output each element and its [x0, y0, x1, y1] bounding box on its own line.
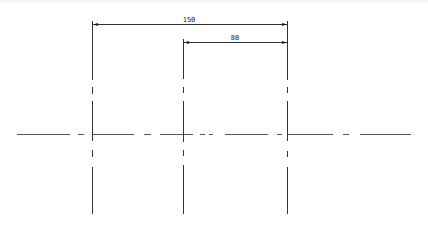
- dimension-80: 80: [184, 34, 287, 43]
- technical-drawing: 150 80: [0, 0, 428, 234]
- dimension-150: 150: [93, 16, 287, 25]
- dimension-label-80: 80: [231, 34, 239, 42]
- dimension-label-150: 150: [183, 16, 196, 24]
